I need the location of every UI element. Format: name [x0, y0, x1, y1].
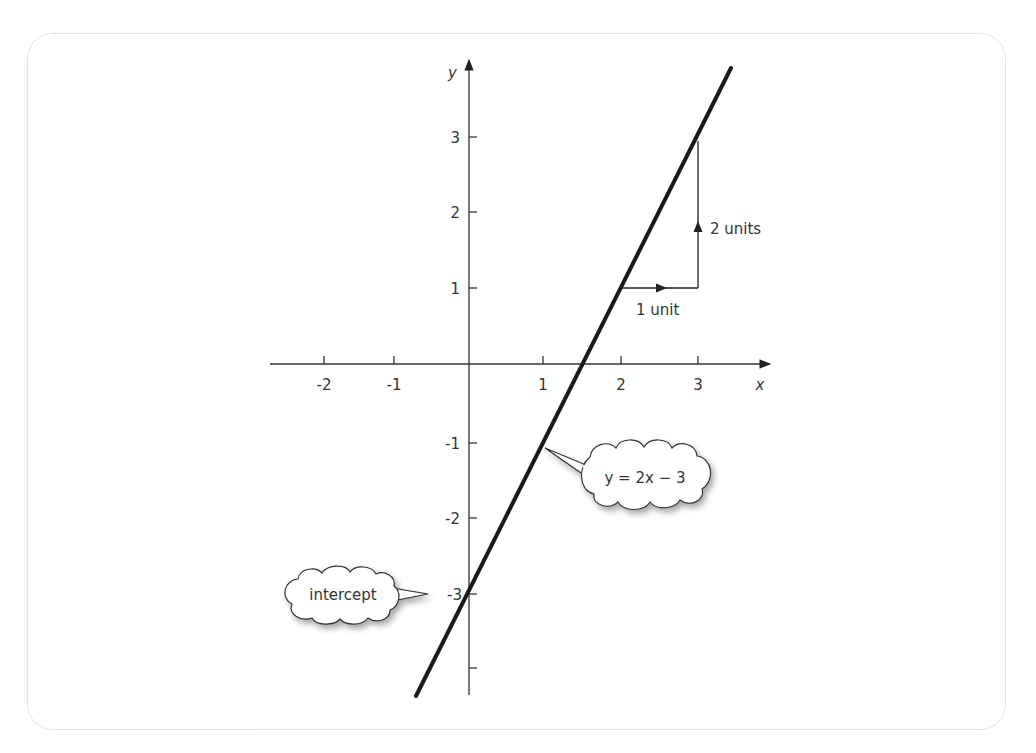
y-tick-label: 1	[450, 280, 460, 298]
y-tick-label: 2	[450, 204, 460, 222]
function-line	[416, 68, 731, 696]
x-tick-label: 2	[616, 376, 626, 394]
x-tick-label: 3	[693, 376, 703, 394]
y-tick-label: -2	[445, 510, 460, 528]
linear-function-graph: -2 -1 1 2 3 x 3 2 1 -1 -2 -3 y 1 unit 2 …	[0, 0, 1036, 753]
rise-label: 2 units	[710, 220, 761, 238]
x-axis-ticks	[324, 356, 698, 364]
y-tick-label: 3	[450, 129, 460, 147]
intercept-label: intercept	[309, 586, 377, 604]
run-label: 1 unit	[636, 301, 679, 319]
y-axis-label: y	[447, 64, 458, 82]
run-arrow-icon	[656, 284, 667, 293]
equation-label: y = 2x − 3	[604, 469, 685, 487]
x-tick-label: -2	[317, 376, 332, 394]
x-axis-label: x	[755, 376, 765, 394]
x-tick-label: 1	[538, 376, 548, 394]
x-tick-label: -1	[387, 376, 402, 394]
y-tick-label: -1	[445, 435, 460, 453]
rise-arrow-icon	[694, 221, 703, 232]
y-tick-label: -3	[447, 586, 462, 604]
